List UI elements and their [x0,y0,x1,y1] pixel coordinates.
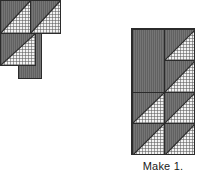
hst-row-unit-b [0,101,61,135]
assembled-hst-r0c1 [164,29,195,61]
assembled-quilt-block [131,28,195,155]
dark-triangle [165,93,195,123]
dark-triangle [165,61,195,92]
make-quantity-caption: Make 1. [131,160,195,172]
dark-triangle [31,1,60,33]
dark-triangle [133,93,164,123]
diagram-canvas: Make 1. [0,0,210,186]
dark-triangle [1,34,35,65]
assembled-hst-r2c0 [132,92,165,124]
assembled-hst-r2c1 [164,92,195,124]
assembled-solid-rectangle [132,29,165,93]
hst-cell [0,33,36,66]
assembled-hst-r3c1 [164,123,195,155]
assembled-hst-r3c0 [132,123,165,155]
hst-cell [0,0,31,34]
assembled-hst-r1c1 [164,60,195,93]
dark-triangle [165,30,195,60]
dark-triangle [165,124,195,155]
dark-triangle [1,1,30,33]
hst-cell [30,0,61,34]
dark-triangle [133,124,164,155]
